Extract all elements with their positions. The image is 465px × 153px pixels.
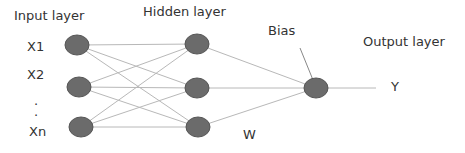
input-node-n <box>69 117 93 137</box>
input-xn-label: Xn <box>29 124 46 139</box>
ellipsis-dot-2: . <box>34 104 38 119</box>
weight-label: W <box>243 127 256 142</box>
bias-label: Bias <box>268 23 295 38</box>
input-layer-label: Input layer <box>14 8 84 23</box>
input-x1-label: X1 <box>27 39 44 54</box>
output-layer-label: Output layer <box>363 34 445 49</box>
edges <box>77 44 376 127</box>
input-node-2 <box>67 77 91 97</box>
input-x2-label: X2 <box>27 67 44 82</box>
input-node-1 <box>65 35 89 55</box>
hidden-node-2 <box>185 78 209 98</box>
output-node <box>304 78 328 98</box>
hidden-node-1 <box>185 34 209 54</box>
hidden-node-3 <box>186 117 210 137</box>
neural-network-diagram: Input layer Hidden layer Bias Output lay… <box>0 0 465 153</box>
output-y-label: Y <box>391 79 399 94</box>
hidden-layer-label: Hidden layer <box>143 4 226 19</box>
